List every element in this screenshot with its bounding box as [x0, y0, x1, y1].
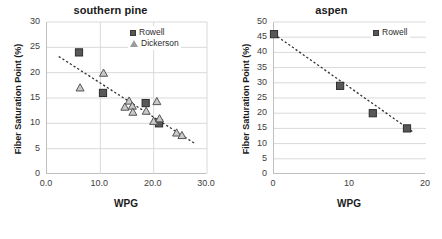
- data-point-square: [99, 89, 106, 96]
- x-tick-label: 30.0: [186, 178, 226, 188]
- data-point-square: [270, 31, 277, 38]
- figure-two-panel-scatter: southern pine Fiber Saturation Point (%)…: [0, 0, 442, 239]
- data-point-square: [337, 82, 344, 89]
- data-point-triangle: [156, 115, 164, 122]
- panel-aspen: aspen Fiber Saturation Point (%) 0102005…: [221, 0, 442, 239]
- y-tick-label: 50: [239, 16, 267, 26]
- chart-title-right: aspen: [221, 4, 442, 16]
- y-tick-label: 15: [12, 92, 40, 102]
- chart-title-left: southern pine: [0, 4, 221, 16]
- legend-label: Dickerson: [141, 38, 179, 49]
- y-tick-label: 10: [239, 138, 267, 148]
- y-tick-label: 30: [12, 16, 40, 26]
- legend-item[interactable]: Rowell: [130, 27, 179, 38]
- x-tick-label: 20.0: [133, 178, 173, 188]
- x-tick-label: 0: [253, 178, 293, 188]
- y-tick-label: 25: [239, 92, 267, 102]
- y-tick-label: 15: [239, 122, 267, 132]
- legend-label: Rowell: [139, 27, 165, 38]
- x-tick-label: 10: [329, 178, 369, 188]
- plot-area-right: [273, 22, 425, 174]
- data-point-square: [369, 110, 376, 117]
- trendline: [59, 56, 194, 143]
- data-point-square: [142, 99, 149, 106]
- legend-square-icon: [373, 30, 379, 36]
- legend-square-icon: [130, 30, 136, 36]
- y-tick-label: 45: [239, 31, 267, 41]
- legend-triangle-icon: [130, 40, 138, 47]
- x-tick-label: 0.0: [26, 178, 66, 188]
- y-tick-label: 10: [12, 117, 40, 127]
- legend-label: Rowell: [382, 27, 408, 38]
- legend-item[interactable]: Dickerson: [130, 38, 179, 49]
- data-point-square: [75, 49, 82, 56]
- y-tick-label: 20: [239, 107, 267, 117]
- x-axis-label-left: WPG: [46, 198, 206, 209]
- plot-canvas-left: [47, 22, 207, 174]
- panel-southern-pine: southern pine Fiber Saturation Point (%)…: [0, 0, 221, 239]
- x-axis-label-right: WPG: [273, 198, 425, 209]
- x-tick-label: 20: [405, 178, 442, 188]
- y-tick-label: 20: [12, 67, 40, 77]
- data-point-triangle: [142, 107, 150, 114]
- y-tick-label: 30: [239, 77, 267, 87]
- y-tick-label: 35: [239, 62, 267, 72]
- plot-area-left: [46, 22, 206, 174]
- legend-right: Rowell: [371, 26, 410, 39]
- plot-canvas-right: [274, 22, 426, 174]
- legend-item[interactable]: Rowell: [373, 27, 408, 38]
- y-tick-label: 0: [239, 168, 267, 178]
- x-tick-label: 10.0: [79, 178, 119, 188]
- y-tick-label: 0: [12, 168, 40, 178]
- data-point-square: [403, 125, 410, 132]
- y-tick-label: 5: [239, 153, 267, 163]
- legend-left: RowellDickerson: [128, 26, 181, 50]
- y-tick-label: 5: [12, 143, 40, 153]
- y-tick-label: 40: [239, 46, 267, 56]
- data-point-triangle: [76, 84, 84, 91]
- y-tick-label: 25: [12, 41, 40, 51]
